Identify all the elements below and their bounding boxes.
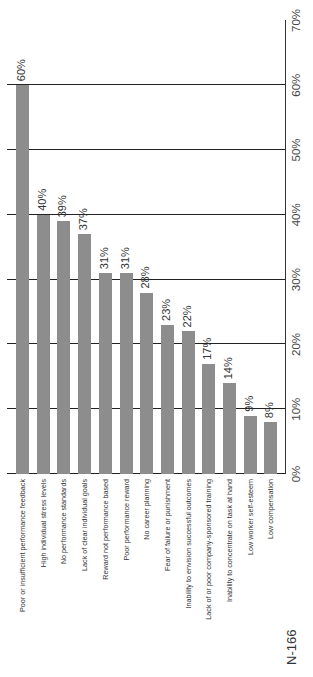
bar-value-label: 37% <box>77 208 90 230</box>
category-label: High individual stress levels <box>37 479 50 664</box>
bar-value-label: 31% <box>98 247 111 269</box>
y-tick-label: 20% <box>290 324 302 364</box>
bar <box>202 364 215 474</box>
bar-value-label: 14% <box>222 357 235 379</box>
value-axis <box>285 20 286 474</box>
category-label: Poor or insufficient performance feedbac… <box>16 479 29 664</box>
category-label: Inability to concentrate on task at hand <box>223 479 236 664</box>
y-tick-label: 70% <box>290 0 302 40</box>
bar <box>223 383 236 474</box>
bar <box>244 416 257 474</box>
category-label: Lack of or poor company-sponsored traini… <box>202 479 215 664</box>
y-tick-label: 0% <box>290 454 302 494</box>
bar-value-label: 28% <box>139 267 152 289</box>
category-label: Reward not performance based <box>99 479 112 664</box>
category-label: Low worker self-esteem <box>244 479 257 664</box>
category-label: Low compensation <box>264 479 277 664</box>
gridline <box>7 84 285 85</box>
bar-value-label: 8% <box>263 402 276 418</box>
y-tick-label: 60% <box>290 65 302 105</box>
bar <box>182 331 195 474</box>
bar-value-label: 23% <box>160 299 173 321</box>
bar <box>120 273 133 474</box>
gridline <box>7 149 285 150</box>
bar <box>37 215 50 474</box>
y-tick-label: 50% <box>290 130 302 170</box>
bar-value-label: 31% <box>119 247 132 269</box>
bar-value-label: 9% <box>243 396 256 412</box>
bar <box>161 325 174 474</box>
bar-value-label: 22% <box>181 305 194 327</box>
y-tick-label: 10% <box>290 389 302 429</box>
category-label: Lack of clear individual goals <box>78 479 91 664</box>
sample-size-note: N-166 <box>284 630 299 665</box>
bar-value-label: 60% <box>15 59 28 81</box>
bar <box>57 221 70 474</box>
y-tick-label: 40% <box>290 195 302 235</box>
bar-value-label: 17% <box>201 338 214 360</box>
category-label: No career planning <box>140 479 153 664</box>
category-label: Inability to envision successful outcome… <box>182 479 195 664</box>
chart-rotated-container: 0%10%20%30%40%50%60%70%60%Poor or insuff… <box>0 0 313 677</box>
category-label: No performance standards <box>57 479 70 664</box>
y-tick-label: 30% <box>290 260 302 300</box>
bar <box>264 422 277 474</box>
bar-value-label: 40% <box>36 189 49 211</box>
bar <box>140 293 153 474</box>
bar <box>16 85 29 474</box>
category-label: Fear of failure or punishment <box>161 479 174 664</box>
category-label: Poor performance reward <box>120 479 133 664</box>
bar-value-label: 39% <box>56 195 69 217</box>
bar <box>78 234 91 474</box>
bar <box>99 273 112 474</box>
